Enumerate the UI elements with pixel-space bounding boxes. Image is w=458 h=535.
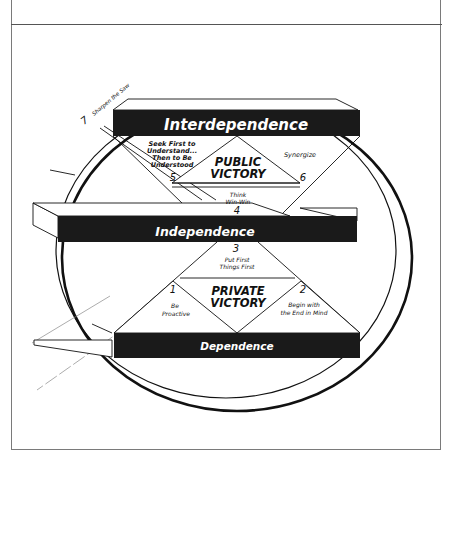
habit-4-text-1: Think xyxy=(230,191,247,198)
habit-7-number: 7 xyxy=(78,114,90,127)
habit-3-text-2: Things First xyxy=(220,263,255,271)
habit-2-number: 2 xyxy=(300,284,306,295)
interdependence-bar-top-face xyxy=(113,99,358,110)
independence-bar-top-face xyxy=(33,203,290,216)
habit-2-text-2: the End in Mind xyxy=(281,309,328,316)
habit-2-text-1: Begin with xyxy=(288,301,320,309)
habit-5-text-4: Understood xyxy=(151,161,194,169)
habit-6-number: 6 xyxy=(300,172,306,183)
habit-4-number: 4 xyxy=(234,205,240,216)
habit-3-number: 3 xyxy=(233,243,239,254)
habit-1-text-1: Be xyxy=(171,302,179,309)
interdependence-label: Interdependence xyxy=(164,116,308,134)
independence-label: Independence xyxy=(155,224,255,239)
habit-1-number: 1 xyxy=(170,284,176,295)
private-victory-label-2: VICTORY xyxy=(210,296,267,310)
habit-5-number: 5 xyxy=(170,172,176,183)
dependence-bar-end-face xyxy=(34,340,112,357)
habit-4-text-2: Win-Win xyxy=(226,198,251,205)
habit-1-text-2: Proactive xyxy=(162,310,190,317)
seven-habits-diagram: Interdependence Independence Dependence … xyxy=(0,0,458,535)
dependence-label: Dependence xyxy=(200,340,273,352)
habit-3-text-1: Put First xyxy=(225,256,250,263)
public-victory-label-2: VICTORY xyxy=(210,167,267,181)
habit-6-text: Synergize xyxy=(284,151,316,159)
